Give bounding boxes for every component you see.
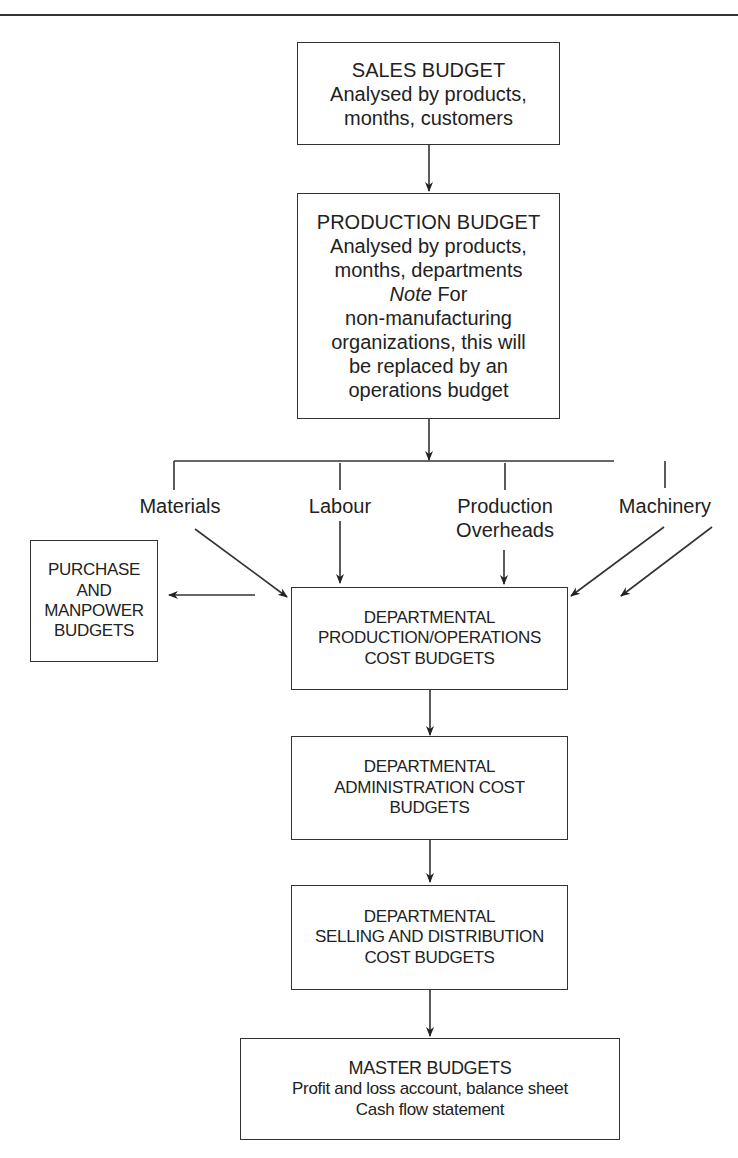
purchase-line: AND [77, 581, 112, 601]
master-budgets-title: MASTER BUDGETS [349, 1058, 512, 1080]
input-label-machinery: Machinery [605, 494, 725, 518]
sales-budget-box: SALES BUDGET Analysed by products, month… [297, 42, 560, 145]
dept-admin-line: DEPARTMENTAL [364, 757, 495, 777]
note-for: For [432, 283, 468, 305]
production-budget-note-line: organizations, this will [331, 330, 526, 354]
production-budget-note-line: be replaced by an [349, 354, 508, 378]
overheads-line-1: Production [440, 494, 570, 518]
purchase-manpower-box: PURCHASE AND MANPOWER BUDGETS [30, 540, 158, 662]
production-budget-note-line: operations budget [348, 378, 508, 402]
note-label: Note [390, 283, 432, 305]
production-budget-note: Note For [390, 282, 468, 306]
dept-selling-line: SELLING AND DISTRIBUTION [315, 927, 544, 947]
production-budget-line: months, departments [335, 258, 523, 282]
overheads-line-2: Overheads [440, 518, 570, 542]
master-budgets-line: Profit and loss account, balance sheet [292, 1079, 568, 1099]
master-budgets-line: Cash flow statement [356, 1100, 504, 1120]
dept-selling-cost-box: DEPARTMENTAL SELLING AND DISTRIBUTION CO… [291, 885, 568, 990]
production-budget-line: Analysed by products, [330, 234, 527, 258]
dept-selling-line: COST BUDGETS [364, 948, 494, 968]
input-label-production-overheads: Production Overheads [440, 494, 570, 542]
production-budget-title: PRODUCTION BUDGET [317, 210, 540, 234]
production-budget-box: PRODUCTION BUDGET Analysed by products, … [297, 193, 560, 419]
arrow-materials [195, 529, 287, 597]
input-label-labour: Labour [295, 494, 385, 518]
arrow-machinery-1 [571, 527, 664, 596]
purchase-line: MANPOWER [44, 601, 144, 621]
dept-production-line: COST BUDGETS [364, 649, 494, 669]
dept-admin-cost-box: DEPARTMENTAL ADMINISTRATION COST BUDGETS [291, 736, 568, 840]
dept-admin-line: ADMINISTRATION COST [334, 778, 524, 798]
dept-admin-line: BUDGETS [389, 798, 469, 818]
arrow-machinery-2 [621, 527, 712, 596]
sales-budget-line: months, customers [344, 106, 513, 130]
purchase-line: BUDGETS [54, 621, 134, 641]
input-label-materials: Materials [125, 494, 235, 518]
master-budgets-box: MASTER BUDGETS Profit and loss account, … [240, 1038, 620, 1140]
dept-production-line: DEPARTMENTAL [364, 608, 495, 628]
sales-budget-line: Analysed by products, [330, 82, 527, 106]
production-budget-note-line: non-manufacturing [345, 306, 512, 330]
dept-production-line: PRODUCTION/OPERATIONS [318, 628, 541, 648]
purchase-line: PURCHASE [48, 560, 140, 580]
sales-budget-title: SALES BUDGET [352, 58, 505, 82]
dept-selling-line: DEPARTMENTAL [364, 907, 495, 927]
dept-production-cost-box: DEPARTMENTAL PRODUCTION/OPERATIONS COST … [291, 587, 568, 690]
